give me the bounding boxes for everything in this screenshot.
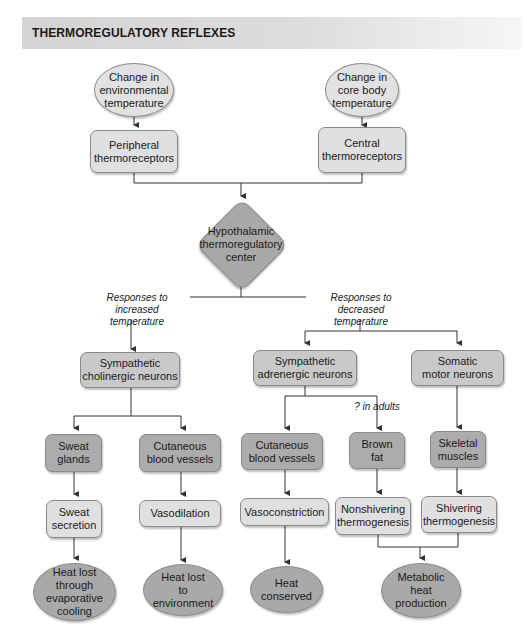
somatic-motor-neurons: Somatic motor neurons xyxy=(411,350,504,386)
input-environmental-temperature: Change in environmental temperature xyxy=(94,63,174,117)
sweat-glands: Sweat glands xyxy=(45,434,102,472)
input-core-body-temperature: Change in core body temperature xyxy=(325,63,399,117)
skeletal-muscles: Skeletal muscles xyxy=(430,431,486,468)
sweat-secretion: Sweat secretion xyxy=(46,500,102,538)
outcome-metabolic-heat-production: Metabolic heat production xyxy=(381,563,461,618)
sympathetic-cholinergic-neurons: Sympathetic cholinergic neurons xyxy=(80,352,180,388)
sympathetic-adrenergic-neurons: Sympathetic adrenergic neurons xyxy=(253,350,357,386)
outcome-evaporative-cooling: Heat lost through evaporative cooling xyxy=(33,563,116,621)
label-increased-temperature: Responses to increased temperature xyxy=(84,292,190,328)
outcome-heat-lost-to-environment: Heat lost to environment xyxy=(143,564,223,616)
hypothalamic-center: Hypothalamic thermoregulatory center xyxy=(194,200,288,290)
vasoconstriction: Vasoconstriction xyxy=(240,498,329,526)
vasodilation: Vasodilation xyxy=(139,500,221,527)
label-decreased-temperature: Responses to decreased temperature xyxy=(306,292,416,328)
cutaneous-blood-vessels-constriction: Cutaneous blood vessels xyxy=(241,433,323,470)
outcome-heat-conserved: Heat conserved xyxy=(250,566,323,613)
brown-fat: Brown fat xyxy=(349,432,405,469)
shivering-thermogenesis: Shivering thermogenesis xyxy=(421,496,497,533)
hypothalamic-center-label: Hypothalamic thermoregulatory center xyxy=(194,200,288,288)
central-thermoreceptors: Central thermoreceptors xyxy=(318,127,406,173)
label-brown-fat-note: ? in adults xyxy=(352,401,402,413)
nonshivering-thermogenesis: Nonshivering thermogenesis xyxy=(335,497,411,535)
cutaneous-blood-vessels-dilation: Cutaneous blood vessels xyxy=(139,434,221,472)
connector-lines xyxy=(0,0,527,638)
peripheral-thermoreceptors: Peripheral thermoreceptors xyxy=(90,130,178,173)
